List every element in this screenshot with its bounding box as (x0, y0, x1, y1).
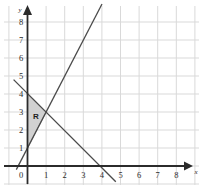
region-label-R: R (33, 112, 39, 121)
graph-figure: y x 0 1 2 3 4 5 6 7 8 1 2 3 4 5 6 7 8 R (0, 0, 202, 189)
y-tick-label-2: 2 (19, 125, 23, 135)
y-tick-label-1: 1 (19, 143, 23, 153)
y-tick-label-3: 3 (19, 107, 23, 117)
y-tick-label-7: 7 (19, 35, 23, 45)
origin-tick-label: 0 (19, 170, 23, 180)
y-tick-label-5: 5 (19, 71, 23, 81)
x-tick-label-5: 5 (118, 170, 122, 180)
y-tick-label-6: 6 (19, 53, 23, 63)
x-tick-label-7: 7 (156, 170, 160, 180)
x-tick-label-8: 8 (174, 170, 178, 180)
y-tick-label-8: 8 (19, 17, 23, 27)
x-tick-label-2: 2 (63, 170, 67, 180)
x-tick-label-1: 1 (44, 170, 48, 180)
x-tick-label-4: 4 (100, 170, 105, 180)
coordinate-plane: y x 0 1 2 3 4 5 6 7 8 1 2 3 4 5 6 7 8 R (0, 0, 202, 189)
x-tick-label-3: 3 (81, 170, 85, 180)
x-tick-label-6: 6 (137, 170, 141, 180)
